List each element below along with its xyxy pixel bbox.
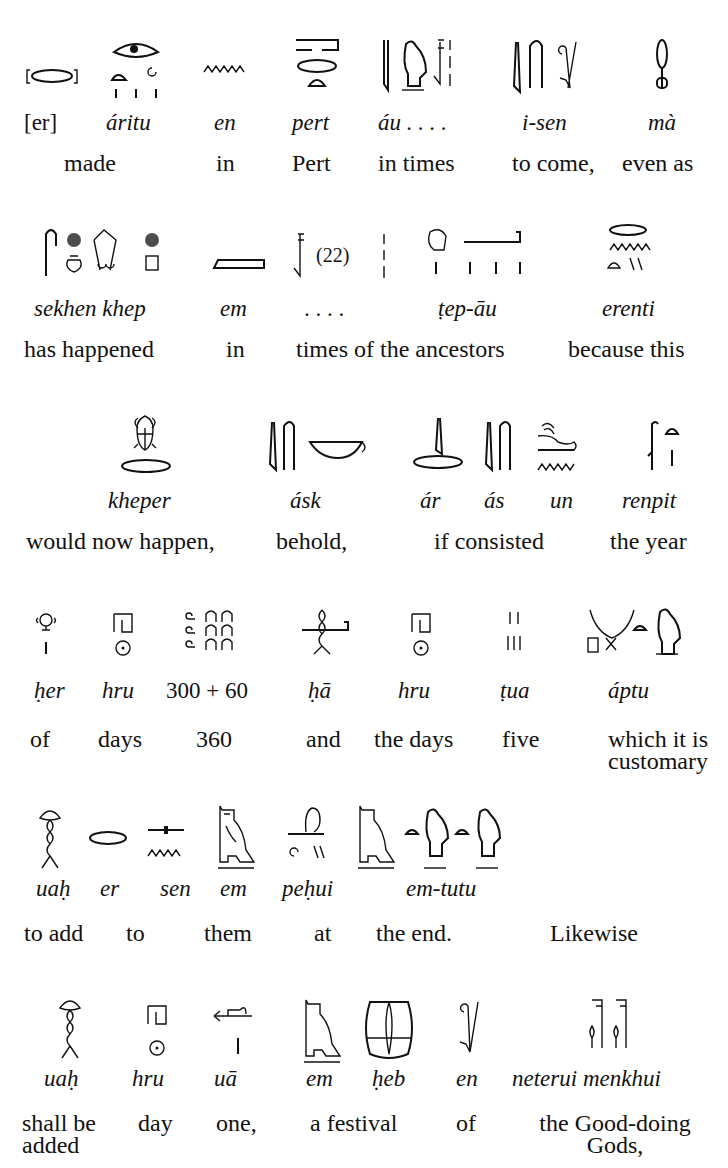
translit-2-4: ṭep-āu <box>438 296 497 322</box>
translation-1-3: Pert <box>292 152 331 174</box>
hieroglyph-group-5-6 <box>354 806 514 876</box>
sekhen-khep-glyph-icon <box>44 228 174 288</box>
translit-5-6: em-tutu <box>406 876 476 902</box>
hare-water-icon <box>534 420 594 480</box>
hieroglyph-group-2-3: (22) <box>294 232 394 296</box>
translation-1-5: to come, <box>512 152 595 174</box>
sling-icon <box>456 1000 496 1060</box>
hieroglyph-group-3-1 <box>118 414 178 478</box>
festival-bowl-icon <box>364 998 420 1064</box>
translit-5-2: er <box>100 876 119 902</box>
translit-4-2: hru <box>102 678 134 704</box>
twisted-cord-icon <box>36 808 66 868</box>
translit-1-6: i-sen <box>522 110 567 136</box>
translation-2-1: has happened <box>24 338 154 360</box>
numeral-360-icon <box>184 610 244 660</box>
hieroglyph-group-5-2 <box>80 828 140 856</box>
lacuna-label: (22) <box>316 244 349 267</box>
hieroglyph-group-6-7 <box>586 998 646 1062</box>
hieroglyph-group-6-2 <box>146 1004 176 1068</box>
translation-6-4: a festival <box>310 1112 397 1134</box>
translation-3-3: if consisted <box>434 530 544 552</box>
translation-6-2: day <box>138 1112 173 1134</box>
palm-bread-icon <box>644 420 684 480</box>
reed-rush-basket-icon <box>266 420 376 480</box>
house-glyph-icon <box>292 38 352 98</box>
hieroglyph-group-4-3 <box>184 610 244 664</box>
translit-1-1: [er] <box>24 110 57 136</box>
shelter-sun-icon <box>112 612 142 662</box>
translit-3-2: ásk <box>290 488 321 514</box>
translation-5-5: the end. <box>376 922 452 944</box>
translit-6-3: uā <box>214 1066 237 1092</box>
translation-4-1: of <box>30 728 50 750</box>
translation-5-2: to <box>126 922 145 944</box>
five-strokes-icon <box>504 610 534 660</box>
translation-3-4: the year <box>610 530 687 552</box>
translation-4-5: the days <box>374 728 453 750</box>
mouth-water-glyph-icon <box>604 222 664 282</box>
translation-6-6: the Good-doing Gods, <box>520 1112 710 1156</box>
hieroglyph-group-4-1 <box>34 612 64 666</box>
hieroglyph-group-6-4 <box>300 1000 350 1070</box>
gods-flags-icon <box>586 998 646 1058</box>
translation-2-3: times of the ancestors <box>296 338 505 360</box>
translit-1-7: mà <box>648 110 676 136</box>
reed-rush-icon <box>482 420 542 480</box>
translation-4-7: which it is customary <box>578 728 708 772</box>
translit-1-2: áritu <box>106 110 151 136</box>
translit-2-2: em <box>220 296 247 322</box>
translit-4-5: hru <box>398 678 430 704</box>
translit-4-3: 300 + 60 <box>166 678 248 704</box>
hieroglyph-group-6-6 <box>456 1000 496 1064</box>
translation-4-6: five <box>502 728 539 750</box>
translit-1-4: pert <box>292 110 329 136</box>
harpoon-icon <box>212 1004 262 1064</box>
ankh-loop-icon <box>650 38 680 98</box>
translit-4-6: ṭua <box>500 678 529 704</box>
translation-4-3: 360 <box>196 728 232 750</box>
translation-1-2: in <box>216 152 235 174</box>
hieroglyph-group-2-1 <box>44 228 174 292</box>
translit-1-3: en <box>214 110 236 136</box>
eye-glyph-icon <box>110 40 170 100</box>
hieroglyph-group-3-3 <box>410 416 470 480</box>
mouth-icon <box>80 828 140 852</box>
translation-4-2: days <box>98 728 142 750</box>
translit-3-5: un <box>550 488 573 514</box>
translit-3-3: ár <box>420 488 440 514</box>
translit-5-3: sen <box>160 876 191 902</box>
translit-5-1: uaḥ <box>36 876 71 902</box>
twisted-cord-icon-2 <box>56 998 86 1058</box>
hindquarters-icon <box>286 806 336 866</box>
translation-2-4: because this <box>568 338 685 360</box>
reed-rush-sling-icon <box>510 40 600 100</box>
hieroglyph-group-5-1 <box>36 808 66 872</box>
hieroglyph-group-2-4 <box>426 228 536 292</box>
lacuna-glyph-icon: (22) <box>294 232 394 292</box>
translit-4-7: áptu <box>608 678 649 704</box>
owl-chick-icon <box>354 806 514 872</box>
hieroglyph-group-6-1 <box>56 998 86 1062</box>
translit-6-6: en <box>456 1066 478 1092</box>
translit-2-1: sekhen khep <box>34 296 146 322</box>
head-arm-glyph-icon <box>426 228 536 288</box>
translation-1-6: even as <box>622 152 693 174</box>
hieroglyph-group-4-7 <box>586 606 716 666</box>
translit-6-1: uaḥ <box>44 1066 79 1092</box>
hieroglyph-group-4-2 <box>112 612 142 666</box>
hieroglyph-group-1-6 <box>510 40 600 104</box>
hieroglyph-group-4-5 <box>410 612 440 666</box>
translation-3-2: behold, <box>276 530 347 552</box>
arrow-water-icon <box>146 820 206 870</box>
translit-4-4: ḥā <box>308 678 331 704</box>
translit-5-4: em <box>220 876 247 902</box>
water-ripple-icon <box>202 62 254 78</box>
translation-5-6: Likewise <box>550 922 638 944</box>
hieroglyph-group-1-2 <box>110 40 170 104</box>
translation-3-1: would now happen, <box>26 530 215 552</box>
reed-quail-icon <box>380 38 460 98</box>
hieroglyph-group-4-4 <box>300 608 360 662</box>
translit-5-5: peḥui <box>282 876 333 902</box>
face-glyph-icon <box>34 612 64 662</box>
